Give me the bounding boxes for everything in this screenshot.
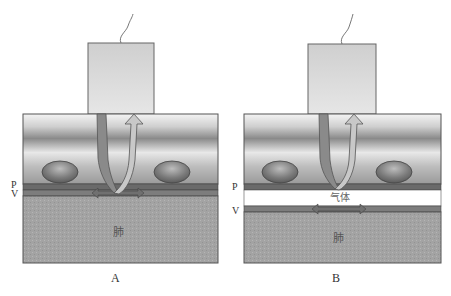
diagram-canvas bbox=[0, 0, 451, 296]
panel-b-pleura-label: P bbox=[232, 182, 238, 192]
probe-cable-icon bbox=[120, 14, 133, 43]
cell-left bbox=[42, 161, 78, 183]
panel-b bbox=[244, 14, 441, 263]
cell-right bbox=[154, 161, 190, 183]
ultrasound-probe bbox=[88, 43, 154, 114]
panel-b-caption: B bbox=[332, 272, 340, 284]
panel-a-visceral-label: V bbox=[11, 189, 18, 199]
panel-b-gas-label: 气体 bbox=[330, 193, 350, 203]
panel-a-lung-label: 肺 bbox=[113, 227, 124, 238]
ultrasound-probe bbox=[308, 44, 376, 114]
cell-right bbox=[376, 161, 412, 183]
cell-left bbox=[262, 161, 298, 183]
panel-b-lung-label: 肺 bbox=[333, 233, 344, 244]
probe-cable-icon bbox=[341, 14, 353, 44]
panel-a-caption: A bbox=[111, 272, 120, 284]
panel-b-visceral-label: V bbox=[232, 206, 239, 216]
